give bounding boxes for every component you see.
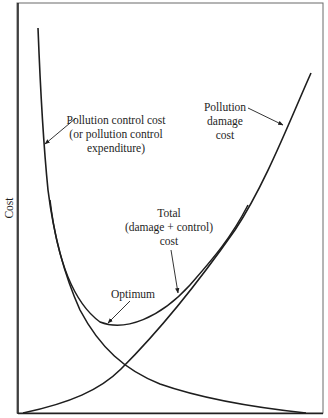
control-label-line3: expenditure) — [66, 141, 165, 155]
damage-label-line3: cost — [204, 128, 246, 142]
damage-arrow — [248, 108, 283, 125]
total-label-line2: (damage + control) — [125, 220, 213, 234]
total-label-line1: Total — [125, 206, 213, 220]
total-label-line3: cost — [125, 234, 213, 248]
damage-label-line1: Pollution — [204, 100, 246, 114]
control-label-line1: Pollution control cost — [66, 113, 165, 127]
optimum-arrow — [108, 301, 130, 323]
damage-label-line2: damage — [204, 114, 246, 128]
optimum-label: Optimum — [111, 287, 155, 301]
y-axis-label: Cost — [3, 197, 15, 218]
total-arrow — [171, 250, 178, 293]
control-label-line2: (or pollution control — [66, 127, 165, 141]
damage-cost-label: Pollution damage cost — [204, 100, 246, 142]
control-cost-label: Pollution control cost (or pollution con… — [66, 113, 165, 155]
total-cost-label: Total (damage + control) cost — [125, 206, 213, 248]
